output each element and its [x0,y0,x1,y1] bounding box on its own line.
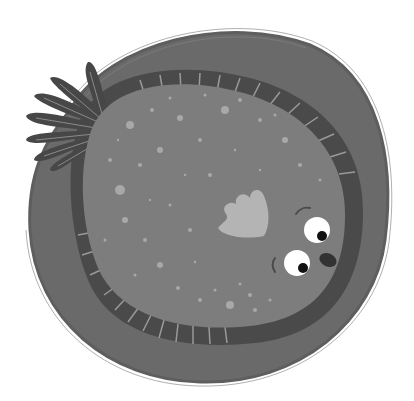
flounder-illustration: Flounder fish illustration [0,0,414,401]
